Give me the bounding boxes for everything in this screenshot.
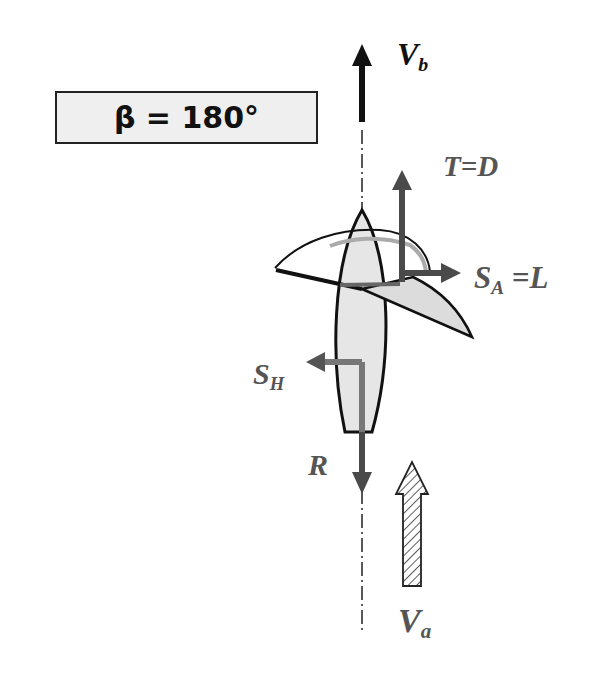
resistance-label: R: [308, 448, 328, 482]
apparent-wind-label: Va: [398, 602, 431, 644]
hull-side-force-label: SH: [253, 357, 284, 395]
thrust-drag-label: T=D: [443, 150, 498, 183]
sailing-force-diagram: [0, 0, 593, 679]
side-force-lift-label: SA =L: [474, 260, 548, 299]
resistance-arrow: [352, 432, 372, 494]
boom-grey: [340, 284, 400, 285]
boat-velocity-label: Vb: [397, 36, 428, 76]
apparent-wind-arrow: [396, 462, 428, 586]
boat-velocity-arrow: [352, 44, 372, 122]
thrust-arrow: [392, 170, 412, 282]
